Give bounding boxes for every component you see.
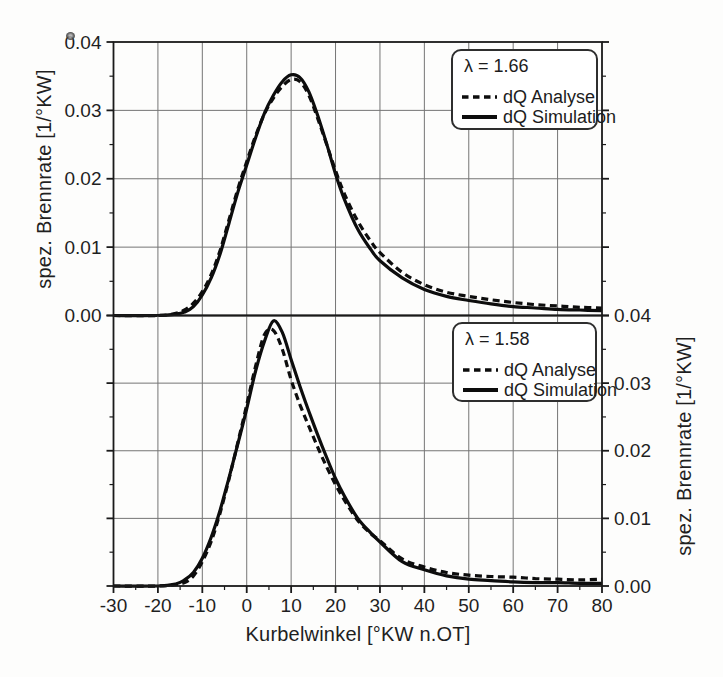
legend-label-analyse: dQ Analyse xyxy=(503,88,595,106)
legend-entry-analyse: dQ Analyse xyxy=(462,361,596,379)
y-tick-label-right: 0.00 xyxy=(614,576,651,597)
x-tick-label: 10 xyxy=(281,595,302,616)
legend-top: λ = 1.66 dQ Analyse dQ Simulation xyxy=(451,49,598,130)
y-tick-label-left: 0.00 xyxy=(65,305,102,326)
x-tick-label: 20 xyxy=(325,595,346,616)
figure-scan: 0.000.010.020.030.040.000.010.020.030.04… xyxy=(0,0,723,677)
x-axis-title: Kurbelwinkel [°KW n.OT] xyxy=(246,623,471,646)
dashed-line-swatch-icon xyxy=(462,365,499,375)
x-tick-label: -10 xyxy=(189,595,216,616)
legend-label-analyse: dQ Analyse xyxy=(504,361,596,379)
y-tick-label-right: 0.03 xyxy=(614,373,651,394)
x-tick-label: 70 xyxy=(547,595,568,616)
legend-entry-simulation: dQ Simulation xyxy=(461,108,616,126)
legend-entry-simulation: dQ Simulation xyxy=(462,381,617,399)
x-tick-label: -20 xyxy=(144,595,171,616)
y-tick-label-right: 0.04 xyxy=(614,305,651,326)
dashed-line-swatch-icon xyxy=(461,92,498,102)
legend-label-simulation: dQ Simulation xyxy=(504,381,617,399)
y-tick-label-right: 0.01 xyxy=(614,508,651,529)
x-tick-label: 0 xyxy=(241,595,252,616)
solid-line-swatch-icon xyxy=(462,385,499,395)
x-tick-label: 60 xyxy=(503,595,524,616)
chart-canvas: 0.000.010.020.030.040.000.010.020.030.04… xyxy=(0,0,723,677)
y-axis-title-right: spez. Brennrate [1/°KW] xyxy=(673,336,696,555)
x-tick-label: 40 xyxy=(414,595,435,616)
legend-label-simulation: dQ Simulation xyxy=(503,108,616,126)
y-axis-title-left: spez. Brennrate [1/°KW] xyxy=(33,69,56,288)
lambda-annotation-top: λ = 1.66 xyxy=(464,56,529,77)
y-tick-label-right: 0.02 xyxy=(614,440,651,461)
solid-line-swatch-icon xyxy=(461,112,498,122)
lambda-annotation-bottom: λ = 1.58 xyxy=(465,329,530,350)
x-tick-label: 30 xyxy=(369,595,390,616)
scan-artifact xyxy=(66,32,75,40)
x-tick-label: 80 xyxy=(591,595,612,616)
legend-entry-analyse: dQ Analyse xyxy=(461,88,595,106)
y-tick-label-left: 0.02 xyxy=(65,168,102,189)
x-tick-label: 50 xyxy=(458,595,479,616)
y-tick-label-left: 0.03 xyxy=(65,100,102,121)
legend-bottom: λ = 1.58 dQ Analyse dQ Simulation xyxy=(452,322,597,402)
x-tick-label: -30 xyxy=(100,595,127,616)
y-tick-label-left: 0.01 xyxy=(65,237,102,258)
